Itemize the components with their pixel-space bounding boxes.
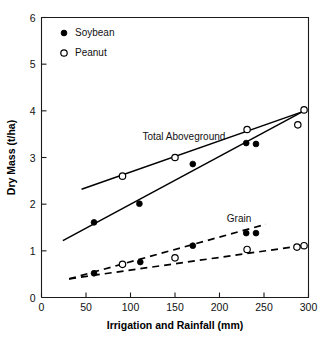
x-tick-label: 100 — [122, 301, 140, 313]
chart-legend: SoybeanPeanut — [61, 27, 115, 58]
y-tick-label: 4 — [30, 105, 36, 117]
axes: 0501001502002503000123456 — [30, 12, 318, 313]
y-tick-label: 2 — [30, 198, 36, 210]
fit-line — [82, 111, 305, 189]
data-point-open — [294, 244, 300, 250]
y-tick-label: 5 — [30, 58, 36, 70]
chart-figure: 0501001502002503000123456 Total Abovegro… — [0, 0, 324, 343]
y-tick-label: 6 — [30, 12, 36, 24]
fit-line — [69, 224, 266, 279]
data-point-filled — [91, 270, 97, 276]
data-point-filled — [137, 201, 143, 207]
data-point-filled — [190, 161, 196, 167]
data-point-open — [244, 246, 250, 252]
series-annotation: Grain — [227, 213, 251, 224]
series-annotation: Total Aboveground — [142, 131, 225, 142]
fit-line — [69, 245, 305, 279]
data-point-filled — [243, 140, 249, 146]
data-point-open — [295, 122, 301, 128]
y-tick-label: 1 — [30, 245, 36, 257]
data-point-filled — [253, 230, 259, 236]
legend-label: Peanut — [75, 47, 107, 58]
x-tick-label: 150 — [166, 301, 184, 313]
data-point-open — [301, 243, 307, 249]
axis-titles: Irrigation and Rainfall (mm)Dry Mass (t/… — [5, 120, 243, 331]
data-point-filled — [137, 259, 143, 265]
x-tick-label: 0 — [39, 301, 45, 313]
data-point-filled — [243, 230, 249, 236]
data-point-open — [244, 126, 250, 132]
data-point-filled — [190, 243, 196, 249]
y-axis-title: Dry Mass (t/ha) — [5, 120, 17, 195]
data-point-open — [172, 255, 178, 261]
data-point-open — [119, 261, 125, 267]
data-point-filled — [91, 219, 97, 225]
y-tick-label: 3 — [30, 152, 36, 164]
scatter-plot: 0501001502002503000123456 Total Abovegro… — [0, 0, 324, 343]
x-tick-label: 250 — [255, 301, 273, 313]
x-tick-label: 300 — [300, 301, 318, 313]
chart-annotations: Total AbovegroundGrain — [142, 131, 251, 224]
legend-label: Soybean — [75, 27, 114, 38]
data-point-open — [119, 173, 125, 179]
x-tick-label: 200 — [211, 301, 229, 313]
legend-marker-filled — [61, 30, 67, 36]
legend-marker-open — [61, 50, 67, 56]
x-axis-title: Irrigation and Rainfall (mm) — [107, 319, 244, 331]
y-tick-label: 0 — [30, 292, 36, 304]
x-tick-label: 50 — [80, 301, 92, 313]
data-point-filled — [253, 141, 259, 147]
data-point-open — [301, 107, 307, 113]
data-point-open — [172, 154, 178, 160]
